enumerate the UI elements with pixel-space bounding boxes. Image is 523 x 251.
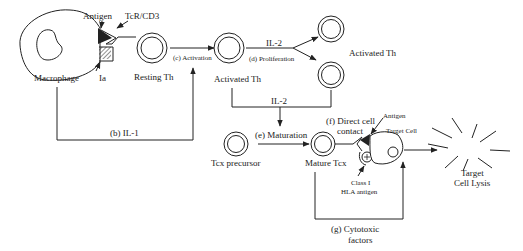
resting-th-label: Resting Th — [134, 72, 174, 82]
activated-th-cell-lower — [318, 62, 344, 88]
proliferation-label: (d) Proliferation — [249, 55, 295, 63]
direct-contact-label-1: (f) Direct cell — [326, 116, 375, 126]
class1-label-1: Class I — [351, 179, 371, 187]
activated-th-cell-upper — [318, 16, 344, 42]
proliferation-arrow-up — [293, 37, 318, 48]
target-cell-label: Target Cell — [386, 127, 417, 135]
mature-tcx-cell — [311, 132, 335, 156]
target-cell — [370, 132, 403, 164]
cytotoxic-label-2: factors — [348, 235, 373, 245]
antigen-label: Antigen — [83, 11, 112, 21]
tcx-precursor-label: Tcx precursor — [211, 158, 261, 168]
tcx-receptor-icon — [335, 137, 362, 151]
activated-th-label-right: Activated Th — [349, 48, 397, 58]
il1-label: (b) IL-1 — [110, 128, 139, 138]
tcr-label: TcR/CD3 — [125, 11, 160, 21]
macrophage-label: Macrophage — [34, 73, 79, 83]
activated-th-label-middle: Activated Th — [214, 74, 262, 84]
target-cell-nucleus — [388, 147, 398, 157]
il2-label-top: IL-2 — [266, 38, 282, 48]
lysis-label-2: Cell Lysis — [454, 178, 491, 188]
maturation-label: (e) Maturation — [255, 130, 308, 140]
proliferation-arrow-down — [293, 48, 316, 60]
class1-label-2: HLA antigen — [341, 188, 378, 196]
il2-label-middle: IL-2 — [271, 96, 287, 106]
tcr-pointer — [117, 21, 128, 28]
mature-tcx-label: Mature Tcx — [305, 158, 347, 168]
class1-pointer — [358, 166, 364, 176]
antigen-pointer — [101, 21, 102, 28]
antigen-bottom-label: Antigen — [383, 112, 406, 120]
activation-label: (c) Activation — [173, 54, 212, 62]
activated-th-cell-middle — [214, 33, 244, 63]
immune-response-diagram: Antigen TcR/CD3 Macrophage Ia Resting Th… — [0, 0, 523, 251]
lysis-label-1: Target — [461, 168, 484, 178]
tcx-precursor-cell — [224, 132, 248, 156]
lysis-burst-icon — [428, 118, 510, 171]
cytotoxic-label-1: (g) Cytotoxic — [331, 224, 379, 234]
direct-contact-label-2: contact — [337, 126, 363, 136]
ia-molecule-icon — [99, 47, 111, 59]
ia-label: Ia — [99, 73, 106, 83]
resting-th-cell — [137, 33, 167, 63]
